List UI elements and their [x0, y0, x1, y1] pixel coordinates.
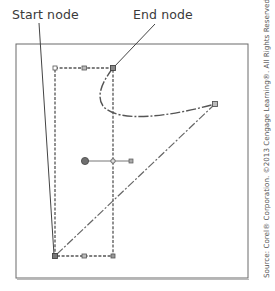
handle-bottom-right[interactable] [111, 254, 115, 258]
handle-top-middle[interactable] [82, 66, 87, 70]
handle-bottom-middle[interactable] [82, 254, 87, 258]
drawing-canvas [0, 0, 275, 291]
right-node[interactable] [213, 102, 218, 107]
end-node-callout-line [114, 24, 155, 67]
diagonal-line[interactable] [55, 104, 215, 256]
skew-handle[interactable] [129, 159, 133, 163]
copyright-credit: Source: Corel® Corporation. ©2013 Cengag… [262, 0, 271, 278]
start-node[interactable] [53, 254, 58, 259]
midpoint-handle[interactable] [111, 159, 115, 163]
handle-top-left[interactable] [53, 66, 57, 70]
end-node[interactable] [111, 66, 116, 71]
rotation-center-icon[interactable] [81, 157, 88, 164]
start-node-callout-line [39, 23, 54, 255]
curve-segment[interactable] [100, 68, 215, 117]
